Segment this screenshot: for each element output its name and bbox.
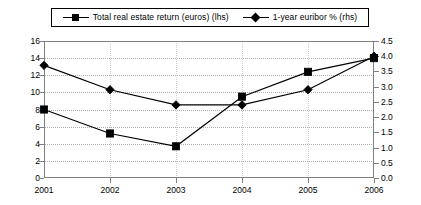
legend-entry-euribor: 1-year euribor % (rhs) — [243, 12, 358, 23]
x-axis-tick-label: 2006 — [352, 186, 396, 195]
right-axis-tick-mark — [374, 41, 379, 42]
data-point-diamond — [106, 86, 114, 94]
series-real-estate-return — [40, 55, 377, 150]
left-axis-tick-label: 16 — [18, 37, 40, 46]
series-line — [44, 56, 374, 105]
right-axis-tick-mark — [374, 87, 379, 88]
legend-label-euribor: 1-year euribor % (rhs) — [273, 13, 358, 22]
x-axis-tick-label: 2001 — [22, 186, 66, 195]
right-axis-tick-mark — [374, 102, 379, 103]
right-axis-tick-label: 2.5 — [381, 98, 407, 107]
data-point-square — [304, 68, 311, 75]
left-axis-tick-label: 4 — [18, 140, 40, 149]
data-point-diamond — [40, 61, 48, 69]
chart-legend: Total real estate return (euros) (lhs) 1… — [51, 8, 369, 27]
left-axis-tick-mark — [39, 178, 44, 179]
right-axis-tick-label: 2.0 — [381, 113, 407, 122]
left-axis-tick-label: 12 — [18, 71, 40, 80]
right-axis-tick-mark — [374, 132, 379, 133]
x-axis-tick-mark — [374, 178, 375, 183]
x-axis-tick-label: 2004 — [220, 186, 264, 195]
left-axis-tick-label: 6 — [18, 122, 40, 131]
x-axis-tick-mark — [308, 178, 309, 183]
x-axis-tick-label: 2002 — [88, 186, 132, 195]
data-point-diamond — [172, 101, 180, 109]
left-axis-tick-label: 2 — [18, 157, 40, 166]
legend-marker-diamond-icon — [243, 12, 269, 23]
plot-area — [44, 41, 374, 178]
chart-figure: Total real estate return (euros) (lhs) 1… — [0, 0, 421, 205]
x-axis-tick-label: 2003 — [154, 186, 198, 195]
legend-label-total-real-estate-return: Total real estate return (euros) (lhs) — [93, 13, 229, 22]
legend-marker-square-icon — [63, 12, 89, 23]
right-axis-tick-label: 3.5 — [381, 67, 407, 76]
series-line — [44, 58, 374, 146]
right-axis-tick-label: 0.0 — [381, 174, 407, 183]
right-axis-tick-label: 1.5 — [381, 128, 407, 137]
left-axis-tick-label: 14 — [18, 54, 40, 63]
data-point-diamond — [238, 101, 246, 109]
x-axis-tick-mark — [242, 178, 243, 183]
series-euribor — [40, 52, 378, 109]
left-axis-tick-label: 8 — [18, 105, 40, 114]
x-axis-tick-mark — [176, 178, 177, 183]
data-point-square — [172, 143, 179, 150]
left-axis-tick-label: 0 — [18, 174, 40, 183]
right-axis-tick-mark — [374, 71, 379, 72]
right-axis-tick-mark — [374, 163, 379, 164]
right-axis-tick-label: 0.5 — [381, 159, 407, 168]
data-point-square — [238, 93, 245, 100]
right-axis-tick-mark — [374, 117, 379, 118]
right-axis-tick-mark — [374, 148, 379, 149]
data-point-square — [106, 130, 113, 137]
data-point-square — [40, 106, 47, 113]
right-axis-tick-label: 3.0 — [381, 82, 407, 91]
left-axis-tick-label: 10 — [18, 88, 40, 97]
right-axis-tick-label: 4.5 — [381, 37, 407, 46]
right-axis-tick-label: 1.0 — [381, 143, 407, 152]
right-axis-tick-label: 4.0 — [381, 52, 407, 61]
x-axis-tick-label: 2005 — [286, 186, 330, 195]
legend-entry-total-real-estate-return: Total real estate return (euros) (lhs) — [63, 12, 229, 23]
x-axis-tick-mark — [110, 178, 111, 183]
data-point-diamond — [304, 86, 312, 94]
series-layer — [44, 41, 374, 178]
